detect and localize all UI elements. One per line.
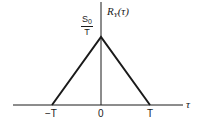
x-tick-zero: 0 [98, 109, 104, 119]
peak-denominator: T [84, 28, 90, 37]
peak-numerator: S0 [82, 15, 92, 25]
peak-value-label: S0 T [81, 15, 93, 37]
x-axis-label: τ [186, 99, 190, 110]
autocorrelation-plot [0, 0, 202, 124]
x-tick-T: T [147, 109, 153, 119]
x-tick-neg-T: −T [45, 109, 57, 119]
y-axis-label: RY(τ) [107, 6, 129, 19]
